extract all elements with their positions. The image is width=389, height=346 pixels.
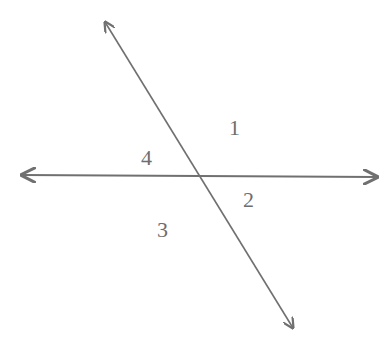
angle-label-2: 2 [243,189,254,211]
angle-label-4: 4 [141,147,152,169]
angle-label-3: 3 [157,219,168,241]
diagram-canvas: 1 2 3 4 [0,0,389,346]
lines-layer [0,0,389,346]
angle-label-1: 1 [229,117,240,139]
